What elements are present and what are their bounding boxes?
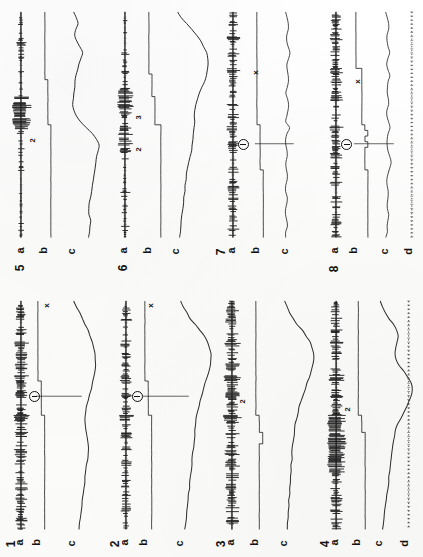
panel-8-number: 8 <box>329 266 341 273</box>
panel-2-circled-minus-marker <box>132 391 143 402</box>
panel-6-step-label-2: 2 <box>133 147 142 151</box>
panel-6-label-a: a <box>117 247 128 253</box>
panel-3-step-label-2: 2 <box>237 399 246 403</box>
panel-8-label-b: b <box>348 247 359 254</box>
panel-4-traces <box>317 279 423 557</box>
panel-8-label-a: a <box>329 247 340 253</box>
panel-3-number: 3 <box>215 540 227 547</box>
panel-7-x-marker: x <box>250 70 259 74</box>
panel-2: x a b c 2 <box>106 279 212 557</box>
panel-8-x-marker: x <box>353 79 362 83</box>
panel-1-circled-minus-marker <box>29 391 40 402</box>
panel-6-label-c: c <box>169 248 180 254</box>
panel-2-label-b: b <box>138 539 149 546</box>
panel-4-label-d: d <box>399 540 410 547</box>
panel-5-label-a: a <box>15 247 26 253</box>
panel-5-step-label-2: 2 <box>28 138 37 142</box>
panel-1-traces <box>0 279 106 557</box>
panel-8: x a b c d 8 <box>317 0 423 279</box>
panel-7-label-b: b <box>249 247 260 254</box>
panel-7-label-c: c <box>278 248 289 254</box>
panel-2-x-marker: x <box>145 303 154 307</box>
panel-4-label-b: b <box>351 539 362 546</box>
panel-3-traces <box>212 279 318 557</box>
panel-6: 3 2 a b c 6 <box>106 0 212 279</box>
panel-7-number: 7 <box>215 249 227 256</box>
panel-8-traces <box>317 0 423 279</box>
panel-6-step-label-3: 3 <box>133 115 142 119</box>
panel-1-label-b: b <box>31 539 42 546</box>
panel-3-label-c: c <box>277 540 288 546</box>
panel-5-traces <box>0 0 106 279</box>
figure-root: 2 a b c 5 3 2 a b c 6 x a b c <box>0 0 423 557</box>
panel-5-number: 5 <box>14 265 26 272</box>
panel-6-label-b: b <box>142 247 153 254</box>
panel-2-label-c: c <box>173 540 184 546</box>
panel-6-number: 6 <box>117 265 129 272</box>
panel-1: x a b c 1 <box>0 279 106 557</box>
panel-8-label-c: c <box>379 248 390 254</box>
panel-5-label-c: c <box>66 248 77 254</box>
panel-4-label-c: c <box>373 540 384 546</box>
panel-4-number: 4 <box>320 540 332 547</box>
panel-7-traces <box>212 0 318 279</box>
panel-7-circled-minus-marker <box>238 139 249 150</box>
panel-7: x a b c 7 <box>212 0 318 279</box>
panel-2-traces <box>106 279 212 557</box>
panel-1-number: 1 <box>5 540 17 547</box>
panel-2-number: 2 <box>109 540 121 547</box>
panel-3-label-b: b <box>248 539 259 546</box>
panel-8-label-d: d <box>403 248 414 255</box>
panel-6-traces <box>106 0 212 279</box>
panel-5: 2 a b c 5 <box>0 0 106 279</box>
panel-1-x-marker: x <box>42 303 51 307</box>
panel-grid: 2 a b c 5 3 2 a b c 6 x a b c <box>0 0 423 557</box>
panel-5-label-b: b <box>38 247 49 254</box>
panel-4-step-label-2: 2 <box>343 407 352 411</box>
panel-4: 2 a b c d 4 <box>317 279 423 557</box>
panel-3: 2 a b c 3 <box>212 279 318 557</box>
panel-1-label-c: c <box>66 540 77 546</box>
